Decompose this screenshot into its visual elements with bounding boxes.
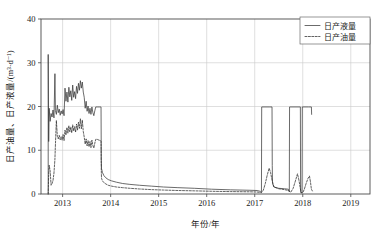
x-tick-label: 2016 [198, 198, 215, 208]
x-tick-label: 2015 [150, 198, 167, 208]
x-axis-title: 年份/年 [191, 219, 220, 229]
x-tick-label: 2019 [342, 198, 359, 208]
line-chart: 2013201420152016201720182019010203040年份/… [0, 0, 377, 233]
y-tick-label: 30 [27, 58, 36, 68]
grid-lines [41, 19, 370, 194]
series-group [48, 54, 312, 194]
y-axis-title: 日产油量、日产液量/(m³·d⁻¹) [5, 50, 15, 162]
legend-label-1: 日产液量 [324, 21, 356, 31]
series-line-1 [48, 54, 311, 194]
x-tick-label: 2013 [54, 198, 71, 208]
x-tick-label: 2018 [294, 198, 311, 208]
chart-container: 2013201420152016201720182019010203040年份/… [0, 0, 377, 233]
x-tick-label: 2014 [102, 198, 120, 208]
y-tick-label: 10 [27, 145, 36, 155]
legend-label-2: 日产油量 [324, 32, 356, 42]
y-tick-label: 20 [27, 102, 36, 112]
y-tick-label: 40 [27, 14, 36, 24]
series-line-2 [48, 119, 312, 194]
x-tick-label: 2017 [246, 198, 263, 208]
legend: 日产液量日产油量 [300, 17, 370, 44]
y-tick-label: 0 [31, 189, 35, 199]
